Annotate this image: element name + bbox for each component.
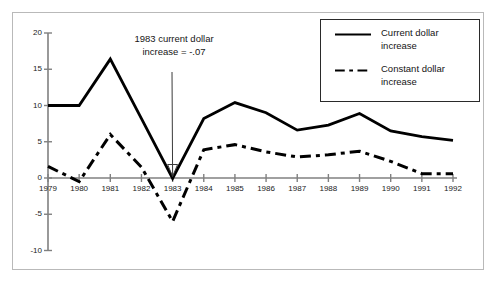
chart-annotation: 1983 current dollar increase = -.07 [110, 32, 238, 58]
legend-solid-line-swatch [329, 33, 377, 36]
legend-label-current-dollar: Current dollar increase [381, 26, 475, 52]
x-tick-label: 1986 [251, 184, 281, 193]
annotation-leader-line [172, 72, 173, 177]
x-tick-label: 1991 [407, 184, 437, 193]
x-tick-label: 1992 [438, 184, 468, 193]
y-tick-label: 15 [12, 64, 42, 73]
y-tick-label: 10 [12, 101, 42, 110]
legend-label-constant-dollar-line2: increase [381, 75, 475, 88]
x-tick-label: 1984 [189, 184, 219, 193]
x-tick-label: 1989 [345, 184, 375, 193]
legend-label-current-dollar-line2: increase [381, 39, 475, 52]
y-tick-label: 0 [12, 173, 42, 182]
legend-label-constant-dollar-line1: Constant dollar [381, 62, 475, 75]
y-tick-label: -5 [12, 209, 42, 218]
x-tick-label: 1990 [376, 184, 406, 193]
chart-legend: Current dollar increase Constant dollar … [320, 19, 480, 102]
y-tick-label: -10 [12, 246, 42, 255]
x-tick-label: 1982 [126, 184, 156, 193]
x-tick-label: 1980 [64, 184, 94, 193]
annotation-arrow [168, 72, 178, 177]
legend-dashed-line-swatch [329, 69, 377, 72]
annotation-line-2: increase = -.07 [110, 45, 238, 58]
legend-item-current-dollar: Current dollar increase [329, 28, 475, 58]
x-tick-label: 1988 [313, 184, 343, 193]
x-tick-label: 1981 [95, 184, 125, 193]
y-tick-label: 20 [12, 28, 42, 37]
legend-label-current-dollar-line1: Current dollar [381, 26, 475, 39]
chart-screenshot: -10-505101520 19791980198119821983198419… [0, 0, 498, 285]
x-tick-label: 1987 [282, 184, 312, 193]
x-tick-label: 1983 [158, 184, 188, 193]
annotation-line-1: 1983 current dollar [110, 32, 238, 45]
y-tick-label: 5 [12, 137, 42, 146]
legend-label-constant-dollar: Constant dollar increase [381, 62, 475, 88]
x-tick-label: 1979 [33, 184, 63, 193]
legend-item-constant-dollar: Constant dollar increase [329, 64, 475, 94]
x-tick-label: 1985 [220, 184, 250, 193]
